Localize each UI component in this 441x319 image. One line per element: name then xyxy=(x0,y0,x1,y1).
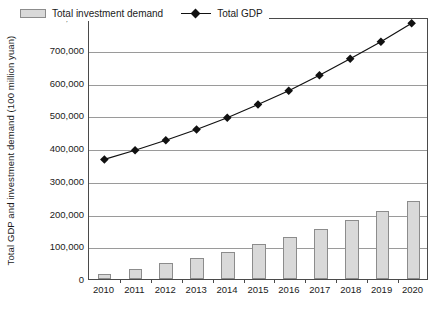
y-axis-tick-label: 700,000 xyxy=(26,46,84,56)
gdp-marker-2016 xyxy=(284,87,293,96)
gdp-line-series xyxy=(89,19,427,279)
x-axis-tickmark xyxy=(336,279,337,283)
legend-item-total-gdp: Total GDP xyxy=(181,8,263,19)
x-axis-tickmark xyxy=(151,279,152,283)
diamond-line-icon xyxy=(181,9,211,18)
chart-legend: Total investment demand Total GDP xyxy=(14,6,269,21)
x-axis-tickmark xyxy=(367,279,368,283)
x-axis-tickmark xyxy=(213,279,214,283)
x-axis-tick-label-2020: 2020 xyxy=(393,284,433,296)
gdp-marker-2011 xyxy=(131,146,140,155)
y-axis-tick-label: 200,000 xyxy=(26,210,84,220)
y-axis-tick-label: 0 xyxy=(26,275,84,285)
y-axis-title: Total GDP and investment demand (100 mil… xyxy=(0,0,22,300)
gdp-marker-2013 xyxy=(192,125,201,134)
x-axis-tickmark xyxy=(398,279,399,283)
x-axis-tick-labels: 2010201120122013201420152016201720182019… xyxy=(88,284,428,300)
gdp-line-path xyxy=(104,23,411,159)
x-axis-tickmark xyxy=(274,279,275,283)
x-axis-tickmark xyxy=(182,279,183,283)
gdp-marker-2019 xyxy=(377,37,386,46)
y-axis-tick-label: 400,000 xyxy=(26,144,84,154)
legend-diamond-marker xyxy=(191,9,201,19)
y-axis-tick-labels: 0100,000200,000300,000400,000500,000600,… xyxy=(22,18,84,280)
legend-label-investment: Total investment demand xyxy=(52,8,163,19)
gdp-marker-2017 xyxy=(315,71,324,80)
plot-area xyxy=(88,18,428,280)
gdp-marker-2018 xyxy=(346,54,355,63)
y-axis-title-text: Total GDP and investment demand (100 mil… xyxy=(6,35,17,265)
y-axis-tick-label: 300,000 xyxy=(26,177,84,187)
chart-container: Total GDP and investment demand (100 mil… xyxy=(0,0,441,319)
gdp-marker-2012 xyxy=(162,136,171,145)
gdp-marker-2014 xyxy=(223,114,232,123)
legend-item-total-investment-demand: Total investment demand xyxy=(20,8,163,19)
legend-label-gdp: Total GDP xyxy=(217,8,263,19)
y-axis-tick-label: 500,000 xyxy=(26,111,84,121)
gdp-marker-2020 xyxy=(407,19,416,28)
y-axis-tick-label: 600,000 xyxy=(26,79,84,89)
gdp-marker-2010 xyxy=(100,155,109,164)
x-axis-tickmark xyxy=(305,279,306,283)
y-axis-tick-label: 100,000 xyxy=(26,242,84,252)
x-axis-tickmark xyxy=(244,279,245,283)
gdp-marker-2015 xyxy=(254,100,263,109)
bar-swatch-icon xyxy=(20,9,46,18)
x-axis-tickmark xyxy=(120,279,121,283)
